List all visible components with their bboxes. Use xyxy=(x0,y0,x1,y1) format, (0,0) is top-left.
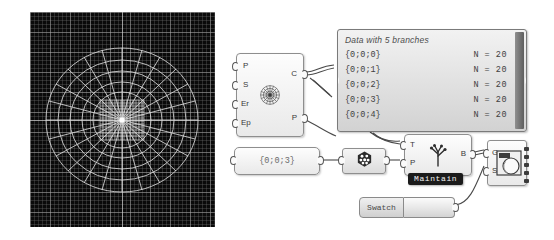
output-label-b: B xyxy=(461,150,466,158)
tree-branch-body[interactable]: T P B xyxy=(404,134,472,176)
panel-input-nub[interactable] xyxy=(337,76,339,85)
input-label-t: T xyxy=(410,141,415,149)
grasshopper-canvas[interactable]: P S Er Ep C P xyxy=(218,0,554,240)
table-row: {0;0;0} N = 20 xyxy=(345,48,519,63)
output-label-c: C xyxy=(291,70,297,78)
input-label-er: Er xyxy=(241,100,249,108)
data-panel-body[interactable]: Data with 5 branches {0;0;0} N = 20 {0;0… xyxy=(337,29,527,132)
screenshot-stage: P S Er Ep C P xyxy=(0,0,554,240)
preview-output-nub[interactable] xyxy=(524,147,529,151)
path-param-value: {0;0;3} xyxy=(259,156,295,166)
input-label-ep: Ep xyxy=(241,119,251,127)
output-label-p: P xyxy=(292,114,297,122)
input-nub-g[interactable] xyxy=(483,149,490,158)
input-nub-s[interactable] xyxy=(232,81,239,90)
table-row: {0;0;3} N = 20 xyxy=(345,93,519,108)
node-polar-component[interactable]: P S Er Ep C P xyxy=(236,53,302,135)
preview-output-nub[interactable] xyxy=(524,171,529,175)
input-label-s: S xyxy=(243,81,248,89)
input-nub-p-tree[interactable] xyxy=(400,159,407,168)
preview-body[interactable]: G S xyxy=(487,140,527,186)
input-nub-er[interactable] xyxy=(232,100,239,109)
swatch-output-nub[interactable] xyxy=(452,203,459,212)
panel-scrollbar[interactable] xyxy=(515,32,524,129)
polar-mesh-geometry xyxy=(30,12,215,227)
explode-output-nub[interactable] xyxy=(383,156,390,165)
branch-path: {0;0;0} xyxy=(345,48,381,63)
explode-input-nub[interactable] xyxy=(338,156,345,165)
swatch-gradient-bar[interactable] xyxy=(404,197,455,218)
branch-count: N = 20 xyxy=(473,48,507,63)
node-polar-body[interactable]: P S Er Ep C P xyxy=(236,53,304,137)
branch-count: N = 20 xyxy=(473,108,507,123)
preview-output-nub[interactable] xyxy=(524,155,529,159)
branch-path: {0;0;1} xyxy=(345,63,381,78)
node-preview-component[interactable]: G S xyxy=(487,140,525,184)
input-nub-s-preview[interactable] xyxy=(483,167,490,176)
panel-output-nub[interactable] xyxy=(525,76,527,85)
custom-preview-icon xyxy=(496,149,522,177)
node-explode-component[interactable] xyxy=(342,148,384,172)
node-data-panel[interactable]: Data with 5 branches {0;0;0} N = 20 {0;0… xyxy=(337,29,527,132)
node-tree-branch-component[interactable]: T P B xyxy=(404,134,470,174)
input-nub-t[interactable] xyxy=(400,141,407,150)
preview-output-nub[interactable] xyxy=(524,179,529,183)
branch-path: {0;0;4} xyxy=(345,108,381,123)
rhino-viewport[interactable] xyxy=(30,12,215,227)
table-row: {0;0;4} N = 20 xyxy=(345,108,519,123)
node-swatch[interactable]: Swatch xyxy=(359,197,455,218)
preview-output-nub[interactable] xyxy=(524,163,529,167)
branch-count: N = 20 xyxy=(473,78,507,93)
branch-count: N = 20 xyxy=(473,63,507,78)
tree-branch-icon xyxy=(427,143,449,167)
input-nub-p[interactable] xyxy=(232,62,239,71)
path-output-nub[interactable] xyxy=(317,156,324,165)
maintain-tag[interactable]: Maintain xyxy=(408,173,463,185)
table-row: {0;0;2} N = 20 xyxy=(345,78,519,93)
explode-body[interactable] xyxy=(342,148,386,174)
node-path-param[interactable]: {0;0;3} xyxy=(234,147,318,173)
radial-burst-icon xyxy=(259,84,281,106)
branch-path: {0;0;2} xyxy=(345,78,381,93)
data-panel-title: Data with 5 branches xyxy=(345,35,519,45)
input-nub-ep[interactable] xyxy=(232,119,239,128)
table-row: {0;0;1} N = 20 xyxy=(345,63,519,78)
output-nub-b[interactable] xyxy=(469,150,476,159)
path-input-nub[interactable] xyxy=(230,156,237,165)
branch-count: N = 20 xyxy=(473,93,507,108)
output-nub-c[interactable] xyxy=(301,70,308,79)
grasshopper-tree-icon xyxy=(355,150,374,173)
input-label-p: P xyxy=(243,62,248,70)
output-nub-p[interactable] xyxy=(301,114,308,123)
branch-path: {0;0;3} xyxy=(345,93,381,108)
path-param-body[interactable]: {0;0;3} xyxy=(234,147,320,175)
swatch-label: Swatch xyxy=(359,197,404,218)
input-label-p-tree: P xyxy=(410,159,415,167)
